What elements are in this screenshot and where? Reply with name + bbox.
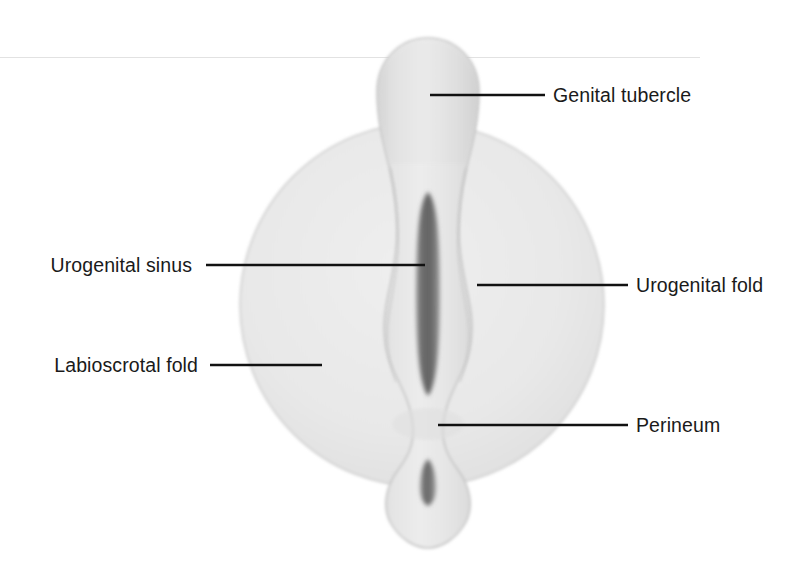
label-urogenital-fold: Urogenital fold <box>636 274 763 296</box>
label-perineum: Perineum <box>636 414 720 436</box>
label-genital-tubercle: Genital tubercle <box>553 84 691 106</box>
genital-tubercle-shading <box>379 40 477 164</box>
label-labioscrotal-fold: Labioscrotal fold <box>54 354 198 376</box>
anatomy-diagram: Genital tubercle Urogenital sinus Urogen… <box>0 0 809 582</box>
label-urogenital-sinus: Urogenital sinus <box>51 254 193 276</box>
figure-root: Genital tubercle Urogenital sinus Urogen… <box>0 0 809 582</box>
urogenital-sinus-shape <box>416 192 440 396</box>
